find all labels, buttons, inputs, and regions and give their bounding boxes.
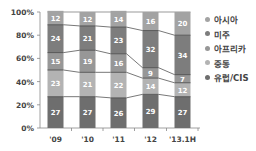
legend-item-africa: 아프리카 xyxy=(205,41,249,56)
legend-dot-icon xyxy=(205,17,210,22)
segment-value-label: 9 xyxy=(148,70,153,78)
segment-value-label: 20 xyxy=(178,20,188,28)
segment-value-label: 22 xyxy=(114,82,124,90)
segment-value-label: 12 xyxy=(83,16,93,24)
connector-line xyxy=(96,97,111,98)
legend-dot-icon xyxy=(205,75,210,80)
segment-value-label: 15 xyxy=(51,58,61,66)
legend-dot-icon xyxy=(205,60,210,65)
legend-label: 아프리카 xyxy=(214,42,246,54)
y-tick-label: 0% xyxy=(21,124,34,133)
segment-value-label: 7 xyxy=(180,76,185,84)
x-tick-label: '13.1H xyxy=(169,135,196,144)
legend-label: 유럽/CIS xyxy=(214,71,249,83)
y-tick-label: 20% xyxy=(16,101,34,110)
segment-value-label: 27 xyxy=(51,109,61,117)
legend-label: 미주 xyxy=(214,28,230,40)
legend-label: 중동 xyxy=(214,57,230,69)
x-tick-label: '11 xyxy=(112,135,125,144)
connector-line xyxy=(127,27,143,30)
connector-line xyxy=(96,26,111,27)
connector-line xyxy=(159,68,175,75)
x-tick-label: '12 xyxy=(144,135,157,144)
connector-line xyxy=(96,50,111,53)
segment-value-label: 14 xyxy=(114,16,124,24)
legend-item-americas: 미주 xyxy=(205,27,249,42)
connector-line xyxy=(159,94,175,96)
legend-dot-icon xyxy=(205,31,210,36)
connector-line xyxy=(159,78,175,83)
connector-line xyxy=(127,94,143,97)
segment-value-label: 12 xyxy=(178,87,188,95)
segment-value-label: 19 xyxy=(83,58,93,66)
connector-line xyxy=(127,72,143,78)
segment-value-label: 27 xyxy=(178,109,188,117)
x-tick-label: '10 xyxy=(81,135,94,144)
segment-value-label: 26 xyxy=(114,110,124,118)
connector-line xyxy=(127,54,143,68)
segment-value-label: 24 xyxy=(51,35,61,43)
segment-value-label: 34 xyxy=(178,52,188,60)
legend-item-asia: 아시아 xyxy=(205,12,249,27)
x-tick-label: '09 xyxy=(49,135,62,144)
connector-line xyxy=(64,25,80,26)
segment-value-label: 14 xyxy=(146,83,156,91)
segment-value-label: 32 xyxy=(146,46,156,54)
y-tick-label: 60% xyxy=(16,54,34,63)
segment-value-label: 16 xyxy=(146,18,156,26)
y-tick-label: 80% xyxy=(16,31,34,40)
y-tick-label: 100% xyxy=(11,8,35,17)
legend: 아시아 미주 아프리카 중동 유럽/CIS xyxy=(205,12,249,85)
connector-line xyxy=(64,70,80,72)
legend-label: 아시아 xyxy=(214,13,238,25)
legend-item-europe-cis: 유럽/CIS xyxy=(205,70,249,85)
segment-value-label: 29 xyxy=(146,108,156,116)
legend-dot-icon xyxy=(205,46,210,51)
y-tick-label: 40% xyxy=(16,78,34,87)
connector-line xyxy=(64,50,80,52)
segment-value-label: 23 xyxy=(114,37,124,45)
segment-value-label: 16 xyxy=(114,60,124,68)
segment-value-label: 12 xyxy=(51,15,61,23)
segment-value-label: 23 xyxy=(51,80,61,88)
segment-value-label: 27 xyxy=(83,109,93,117)
connector-line xyxy=(159,31,175,36)
segment-value-label: 21 xyxy=(83,81,93,89)
legend-item-middle-east: 중동 xyxy=(205,56,249,71)
segment-value-label: 21 xyxy=(83,35,93,43)
